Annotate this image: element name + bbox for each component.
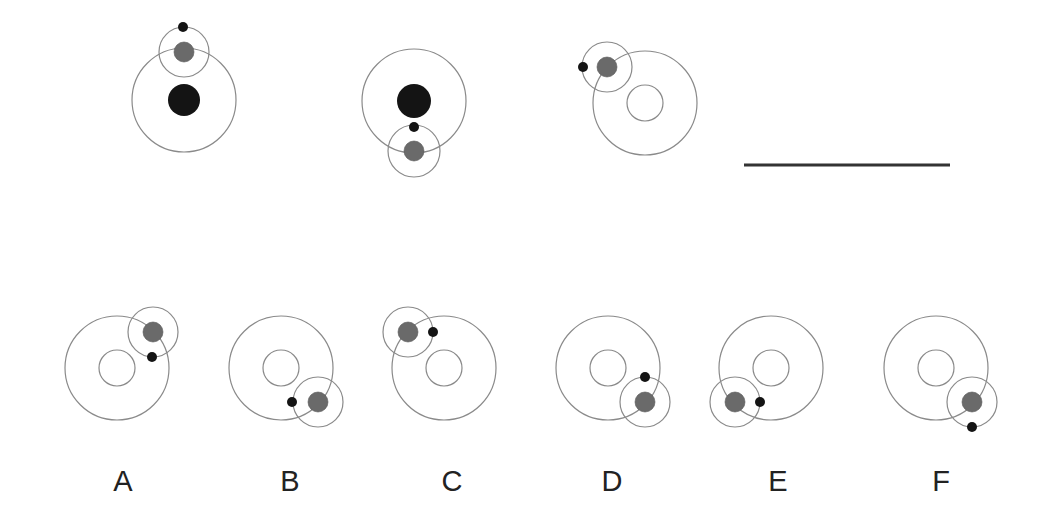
ref-2-panel: [362, 49, 466, 177]
option-b-panel[interactable]: [229, 316, 343, 427]
moon-icon: [409, 122, 419, 132]
option-label-e[interactable]: E: [768, 467, 787, 496]
option-label-a[interactable]: A: [113, 467, 132, 496]
sun-icon: [168, 84, 200, 116]
sun-outline-icon: [99, 350, 135, 386]
option-label-f[interactable]: F: [932, 467, 950, 496]
moon-icon: [755, 397, 765, 407]
ref-1-panel: [132, 22, 236, 152]
option-e-panel[interactable]: [710, 316, 823, 427]
moon-icon: [147, 352, 157, 362]
sun-icon: [397, 84, 431, 118]
moon-icon: [428, 327, 438, 337]
planet-icon: [962, 392, 982, 412]
sun-outline-icon: [753, 350, 789, 386]
sun-outline-icon: [590, 350, 626, 386]
sun-outline-icon: [426, 350, 462, 386]
moon-icon: [640, 372, 650, 382]
ref-3-panel: [578, 42, 697, 155]
planet-icon: [143, 322, 163, 342]
answer-options: [65, 307, 997, 432]
moon-icon: [178, 22, 188, 32]
planet-icon: [404, 141, 424, 161]
option-label-b[interactable]: B: [280, 467, 299, 496]
option-c-panel[interactable]: [383, 307, 496, 420]
planet-icon: [174, 42, 194, 62]
planet-icon: [635, 392, 655, 412]
planet-icon: [398, 322, 418, 342]
sun-outline-icon: [918, 350, 954, 386]
option-f-panel[interactable]: [884, 316, 997, 432]
reference-panels: [132, 22, 697, 177]
planet-icon: [597, 57, 617, 77]
sun-outline-icon: [263, 350, 299, 386]
orbit-diagram-canvas: [0, 0, 1053, 524]
planet-icon: [308, 392, 328, 412]
option-label-c[interactable]: C: [442, 467, 463, 496]
option-label-d[interactable]: D: [602, 467, 623, 496]
option-a-panel[interactable]: [65, 307, 178, 420]
moon-icon: [967, 422, 977, 432]
planet-icon: [725, 392, 745, 412]
sun-outline-icon: [627, 85, 663, 121]
moon-icon: [287, 397, 297, 407]
option-d-panel[interactable]: [556, 316, 670, 427]
moon-icon: [578, 62, 588, 72]
